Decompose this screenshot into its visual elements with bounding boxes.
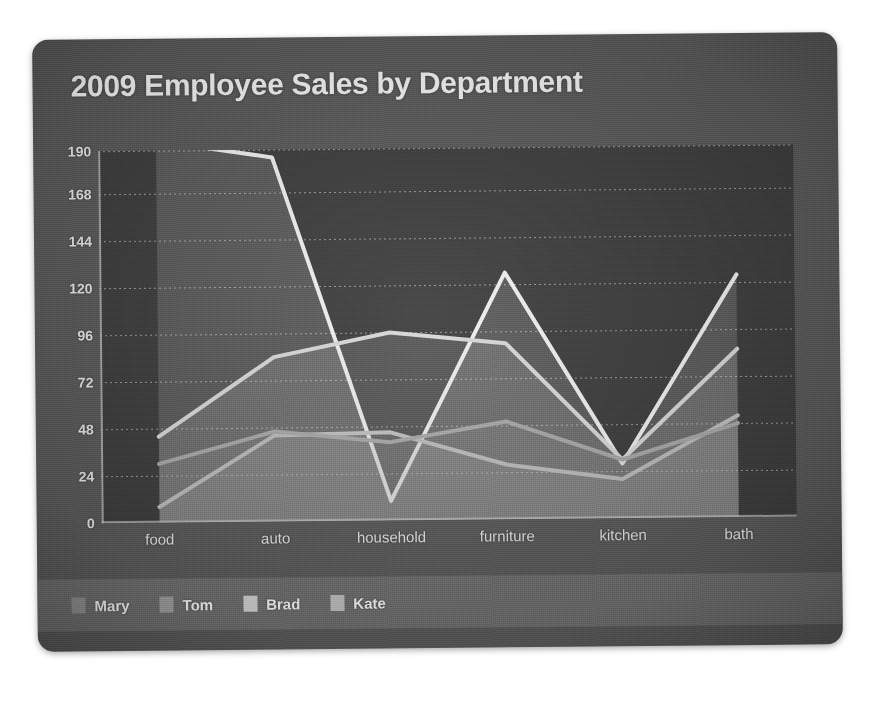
y-axis-tick-label: 96 (77, 327, 93, 343)
legend-swatch-icon (71, 597, 85, 613)
legend-item[interactable]: Mary (71, 596, 129, 614)
series-lines (98, 145, 797, 524)
x-axis-tick-label: bath (724, 525, 753, 542)
legend-label: Brad (266, 595, 300, 612)
legend-swatch-icon (243, 596, 257, 612)
y-axis-tick-label: 190 (68, 143, 92, 159)
y-axis-tick-label: 24 (79, 468, 95, 484)
y-axis-tick-label: 72 (78, 374, 94, 390)
y-axis-tick-labels: 024487296120144168190 (33, 151, 99, 524)
y-axis-tick-label: 120 (69, 280, 93, 296)
legend-label: Mary (94, 596, 129, 613)
legend-label: Tom (182, 596, 213, 613)
legend-label: Kate (353, 594, 386, 611)
x-axis-tick-label: furniture (480, 527, 535, 545)
legend-item[interactable]: Brad (243, 595, 300, 613)
x-axis-tick-label: kitchen (599, 526, 647, 543)
y-axis-tick-label: 48 (78, 421, 94, 437)
legend-swatch-icon (330, 595, 344, 611)
legend-item[interactable]: Tom (159, 596, 213, 614)
y-axis-tick-label: 144 (69, 233, 93, 249)
chart-legend: MaryTomBradKate (71, 591, 386, 618)
legend-item[interactable]: Kate (330, 594, 386, 612)
y-axis-tick-label: 168 (68, 186, 92, 202)
legend-swatch-icon (159, 597, 173, 613)
y-axis-tick-label: 0 (87, 515, 95, 531)
x-axis-tick-label: household (357, 528, 426, 546)
chart-card: 2009 Employee Sales by Department 024487… (32, 32, 843, 652)
page-title: 2009 Employee Sales by Department (70, 65, 582, 104)
x-axis-tick-label: food (145, 531, 174, 548)
x-axis-tick-labels: foodautohouseholdfurniturekitchenbath (102, 525, 797, 558)
x-axis-tick-label: auto (261, 529, 290, 546)
